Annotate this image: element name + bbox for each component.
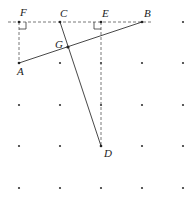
grid-dot	[182, 104, 184, 106]
segment-ab	[19, 22, 142, 63]
grid-dot	[182, 62, 184, 64]
label-d: D	[103, 147, 112, 159]
grid-dot	[182, 187, 184, 189]
grid-dot	[59, 145, 61, 147]
label-a: A	[16, 65, 24, 77]
point-b	[141, 21, 144, 24]
grid-dot	[18, 187, 20, 189]
segment-cd	[60, 22, 101, 146]
grid-dot	[59, 62, 61, 64]
point-e	[100, 21, 103, 24]
label-e: E	[101, 7, 109, 19]
label-b: B	[144, 7, 151, 19]
point-f	[18, 21, 21, 24]
point-a	[18, 62, 21, 65]
grid-dot	[59, 187, 61, 189]
geometry-figure: F C E B A G D	[0, 0, 196, 198]
right-angle-mark-e	[94, 22, 101, 29]
grid-dot	[18, 145, 20, 147]
grid-dot	[182, 21, 184, 23]
grid-dot	[141, 145, 143, 147]
grid-dot	[141, 187, 143, 189]
label-f: F	[19, 6, 27, 18]
grid-dot	[141, 104, 143, 106]
grid-dot	[59, 104, 61, 106]
grid-dot	[141, 62, 143, 64]
grid-dot	[18, 104, 20, 106]
grid-dot	[100, 187, 102, 189]
right-angle-mark-f	[19, 22, 26, 29]
grid-dot	[182, 145, 184, 147]
point-d	[100, 145, 103, 148]
label-g: G	[55, 38, 63, 50]
label-c: C	[60, 7, 68, 19]
point-g	[66, 45, 69, 48]
point-c	[59, 21, 62, 24]
